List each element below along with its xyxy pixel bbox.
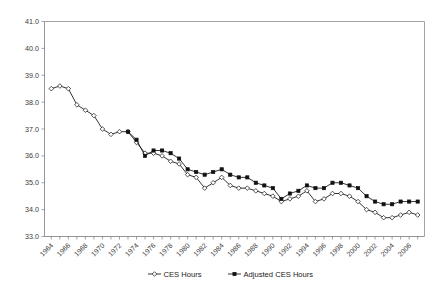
data-point-marker [288,192,291,195]
data-point-marker [416,200,419,203]
data-point-marker [143,154,146,157]
legend-label-2: Adjusted CES Hours [244,270,314,279]
y-tick-label: 34.0 [25,205,39,214]
data-point-marker [305,184,308,187]
data-point-marker [229,173,232,176]
legend-label-1: CES Hours [164,270,202,279]
data-point-marker [331,181,334,184]
chart-container: 41.040.039.038.037.036.035.034.033.0 196… [0,0,438,292]
data-point-marker [399,200,402,203]
data-point-marker [339,181,342,184]
data-point-marker [280,197,283,200]
data-point-marker [271,187,274,190]
y-tick-label: 37.0 [25,125,39,134]
y-axis-tick-labels: 41.040.039.038.037.036.035.034.033.0 [25,17,39,241]
y-tick-label: 38.0 [25,98,39,107]
data-point-marker [373,200,376,203]
data-point-marker [169,152,172,155]
y-tick-label: 36.0 [25,151,39,160]
data-point-marker [160,149,163,152]
data-point-marker [233,272,236,275]
data-point-marker [391,203,394,206]
data-point-marker [356,187,359,190]
y-tick-label: 40.0 [25,44,39,53]
data-point-marker [263,184,266,187]
y-tick-label: 35.0 [25,178,39,187]
data-point-marker [365,195,368,198]
y-tick-label: 41.0 [25,17,39,26]
data-point-marker [322,187,325,190]
data-point-marker [348,184,351,187]
line-chart: 41.040.039.038.037.036.035.034.033.0 196… [0,0,438,292]
data-point-marker [178,157,181,160]
data-point-marker [126,130,129,133]
data-point-marker [254,181,257,184]
data-point-marker [408,200,411,203]
data-point-marker [195,170,198,173]
y-tick-label: 33.0 [25,232,39,241]
data-point-marker [297,189,300,192]
data-point-marker [186,168,189,171]
data-point-marker [314,187,317,190]
data-point-marker [203,173,206,176]
data-point-marker [246,176,249,179]
data-point-marker [152,149,155,152]
y-tick-label: 39.0 [25,71,39,80]
data-point-marker [237,176,240,179]
data-point-marker [220,168,223,171]
data-point-marker [212,170,215,173]
data-point-marker [382,203,385,206]
data-point-marker [135,138,138,141]
